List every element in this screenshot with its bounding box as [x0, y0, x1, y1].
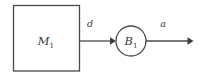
node-label-m1-subscript: 1 [50, 41, 55, 50]
edge-arrowhead-a [188, 37, 194, 44]
edge-label-a: a [160, 18, 166, 29]
edge-arrowhead-d [110, 37, 116, 44]
node-label-b1-subscript: 1 [133, 41, 138, 50]
edge-label-d: d [87, 18, 93, 29]
block-diagram-canvas: M1 d B1 a [0, 0, 199, 78]
diagram-svg: M1 d B1 a [0, 0, 199, 78]
node-label-b1-base: B [123, 34, 132, 48]
